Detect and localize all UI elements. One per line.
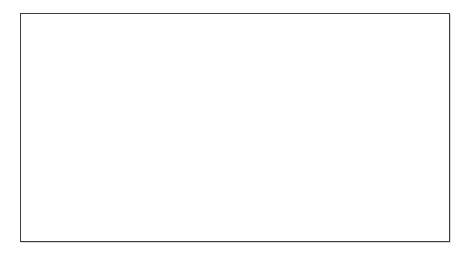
erosion-scene xyxy=(21,14,449,241)
figure-frame xyxy=(20,13,450,242)
diagram-canvas xyxy=(0,0,470,262)
flow-arrow-layer xyxy=(21,14,449,241)
